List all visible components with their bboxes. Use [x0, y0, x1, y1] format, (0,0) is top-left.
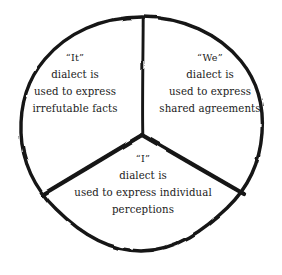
diagram-canvas: “It” dialect is used to express irrefuta… [0, 0, 282, 275]
it-sector-text-block: “It” dialect is used to express irrefuta… [14, 49, 136, 117]
we-sector-line-4: shared agreements [148, 100, 272, 117]
divider-up-stroke [143, 19, 144, 134]
it-sector-line-2: dialect is [14, 66, 136, 83]
circle-diagram-graphic [0, 0, 282, 275]
i-sector-text-block: “I” dialect is used to express individua… [36, 150, 250, 218]
i-sector-line-2: dialect is [36, 167, 250, 184]
it-sector-line-3: used to express [14, 83, 136, 100]
i-sector-line-4: perceptions [36, 201, 250, 218]
i-sector-label: “I” [36, 150, 250, 167]
it-sector-label: “It” [14, 49, 136, 66]
we-sector-line-3: used to express [148, 83, 272, 100]
we-sector-line-2: dialect is [148, 66, 272, 83]
i-sector-line-3: used to express individual [36, 184, 250, 201]
we-sector-label: “We” [148, 49, 272, 66]
we-sector-text-block: “We” dialect is used to express shared a… [148, 49, 272, 117]
it-sector-line-4: irrefutable facts [14, 100, 136, 117]
